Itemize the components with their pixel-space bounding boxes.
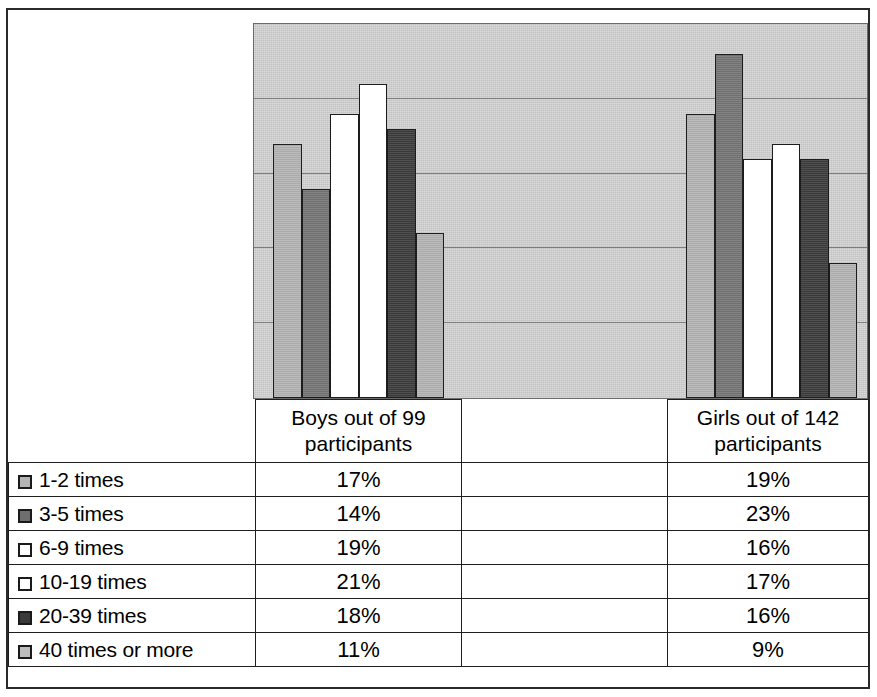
legend-swatch-icon xyxy=(18,475,32,489)
legend-label: 6-9 times xyxy=(39,536,124,559)
legend-swatch-icon xyxy=(18,645,32,659)
legend-cell: 6-9 times xyxy=(9,531,256,565)
bar-texture xyxy=(388,130,415,397)
table-row: 20-39 times18%16% xyxy=(9,599,869,633)
header-cell-gap xyxy=(462,400,668,463)
gap-cell xyxy=(462,633,668,667)
boys-percent-cell: 18% xyxy=(256,599,462,633)
boys-percent-cell: 14% xyxy=(256,497,462,531)
legend-cell: 3-5 times xyxy=(9,497,256,531)
legend-swatch-icon xyxy=(18,509,32,523)
bar-texture xyxy=(830,264,857,397)
bar xyxy=(800,159,829,398)
boys-percent-cell: 17% xyxy=(256,463,462,497)
bar xyxy=(330,114,359,398)
table-row: 3-5 times14%23% xyxy=(9,497,869,531)
legend-cell: 10-19 times xyxy=(9,565,256,599)
legend-label: 1-2 times xyxy=(39,468,124,491)
bar xyxy=(302,189,331,398)
bar xyxy=(273,144,302,398)
bar-texture xyxy=(687,115,714,397)
bar-texture xyxy=(801,160,828,397)
table-row: 1-2 times17%19% xyxy=(9,463,869,497)
bar xyxy=(359,84,388,398)
boys-percent-cell: 19% xyxy=(256,531,462,565)
legend-cell: 1-2 times xyxy=(9,463,256,497)
bar xyxy=(829,263,858,398)
legend-swatch-icon xyxy=(18,543,32,557)
table-row: 6-9 times19%16% xyxy=(9,531,869,565)
header-girls-line2: participants xyxy=(668,431,868,457)
boys-percent-cell: 11% xyxy=(256,633,462,667)
table-row: 40 times or more11%9% xyxy=(9,633,869,667)
bar-texture xyxy=(274,145,301,397)
gap-cell xyxy=(462,497,668,531)
header-boys-line2: participants xyxy=(256,431,461,457)
header-boys-line1: Boys out of 99 xyxy=(256,405,461,431)
bar xyxy=(715,54,744,398)
bar xyxy=(743,159,772,398)
bar xyxy=(686,114,715,398)
header-girls-line1: Girls out of 142 xyxy=(668,405,868,431)
girls-percent-cell: 16% xyxy=(668,599,869,633)
legend-swatch-icon xyxy=(18,611,32,625)
table-body: 1-2 times17%19%3-5 times14%23%6-9 times1… xyxy=(9,463,869,667)
bar-chart-plot-area xyxy=(253,23,868,399)
legend-cell: 40 times or more xyxy=(9,633,256,667)
table-row: 10-19 times21%17% xyxy=(9,565,869,599)
legend-label: 20-39 times xyxy=(39,604,147,627)
table-header-row: Boys out of 99 participants Girls out of… xyxy=(9,400,869,463)
bar-texture xyxy=(303,190,330,397)
chart-page: Boys out of 99 participants Girls out of… xyxy=(0,0,877,697)
legend-cell: 20-39 times xyxy=(9,599,256,633)
gap-cell xyxy=(462,531,668,565)
bar xyxy=(416,233,445,398)
header-cell-boys: Boys out of 99 participants xyxy=(256,400,462,463)
gridline xyxy=(254,98,867,99)
data-table: Boys out of 99 participants Girls out of… xyxy=(8,399,869,667)
gap-cell xyxy=(462,463,668,497)
girls-percent-cell: 17% xyxy=(668,565,869,599)
legend-label: 10-19 times xyxy=(39,570,147,593)
legend-label: 3-5 times xyxy=(39,502,124,525)
bar xyxy=(772,144,801,398)
boys-percent-cell: 21% xyxy=(256,565,462,599)
bar-texture xyxy=(417,234,444,397)
gap-cell xyxy=(462,599,668,633)
girls-percent-cell: 9% xyxy=(668,633,869,667)
gap-cell xyxy=(462,565,668,599)
legend-swatch-icon xyxy=(18,577,32,591)
legend-label: 40 times or more xyxy=(39,638,193,661)
header-cell-blank xyxy=(9,400,256,463)
bar-texture xyxy=(716,55,743,397)
girls-percent-cell: 23% xyxy=(668,497,869,531)
girls-percent-cell: 19% xyxy=(668,463,869,497)
bar xyxy=(387,129,416,398)
header-cell-girls: Girls out of 142 participants xyxy=(668,400,869,463)
girls-percent-cell: 16% xyxy=(668,531,869,565)
